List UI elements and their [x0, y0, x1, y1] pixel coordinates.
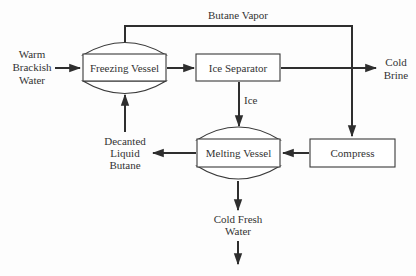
- melting-vessel-node: Melting Vessel: [197, 127, 280, 179]
- freezing-vessel-label: Freezing Vessel: [90, 62, 159, 74]
- terminal-line: Brackish: [12, 61, 52, 73]
- warm-brackish-water-terminal: Warm Brackish Water: [12, 48, 52, 86]
- terminal-line: Brine: [384, 69, 409, 81]
- cold-fresh-water-terminal: Cold Fresh Water: [214, 213, 263, 237]
- decanted-liquid-butane-terminal: Decanted Liquid Butane: [104, 135, 146, 171]
- terminal-line: Decanted: [104, 135, 146, 147]
- ice-label: Ice: [244, 94, 258, 106]
- terminal-line: Water: [19, 74, 45, 86]
- compress-label: Compress: [331, 147, 375, 159]
- cold-brine-terminal: Cold Brine: [384, 56, 409, 81]
- terminal-line: Water: [225, 225, 251, 237]
- melting-vessel-label: Melting Vessel: [206, 147, 272, 159]
- terminal-line: Cold Fresh: [214, 213, 263, 225]
- compress-node: Compress: [310, 139, 395, 167]
- terminal-line: Cold: [385, 56, 407, 68]
- freezing-vessel-node: Freezing Vessel: [83, 43, 166, 94]
- ice-separator-label: Ice Separator: [209, 62, 268, 74]
- butane-vapor-label: Butane Vapor: [208, 9, 268, 21]
- process-flow-diagram: Butane Vapor Warm Brackish Water Freezin…: [0, 0, 416, 276]
- ice-separator-node: Ice Separator: [196, 54, 280, 81]
- terminal-line: Warm: [19, 48, 46, 60]
- terminal-line: Butane: [109, 159, 140, 171]
- terminal-line: Liquid: [110, 147, 140, 159]
